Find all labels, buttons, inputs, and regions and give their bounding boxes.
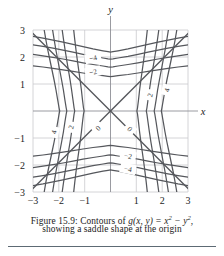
y-axis-label: y <box>107 4 113 15</box>
x-tick-label: 1 <box>134 195 139 206</box>
x-tick-labels: −3 −2 −1 1 2 3 <box>28 195 191 206</box>
x-tick-label: −1 <box>79 195 90 206</box>
x-tick-label: −2 <box>53 195 64 206</box>
footer-divider <box>8 246 216 247</box>
y-tick-labels: 3 2 1 −1 −2 −3 <box>14 25 25 198</box>
y-tick-label: −1 <box>14 133 25 144</box>
y-tick-label: −3 <box>14 187 25 198</box>
x-tick-label: −3 <box>28 195 39 206</box>
contour-plot-svg: −4 −2 0 0 2 <box>0 0 224 206</box>
y-tick-label: 2 <box>20 52 25 63</box>
figure-caption-line-2: showing a saddle shape at the origin <box>0 224 224 236</box>
x-tick-label: 3 <box>186 195 191 206</box>
x-axis-label: x <box>200 106 206 117</box>
x-tick-label: 2 <box>160 195 165 206</box>
y-tick-label: 3 <box>20 25 25 36</box>
y-tick-label: −2 <box>14 160 25 171</box>
figure-container: −4 −2 0 0 2 <box>0 0 224 256</box>
y-tick-label: 1 <box>20 79 25 90</box>
contour-plot: −4 −2 0 0 2 <box>0 0 224 206</box>
